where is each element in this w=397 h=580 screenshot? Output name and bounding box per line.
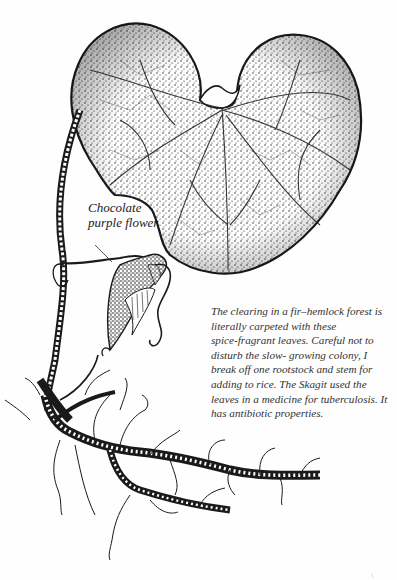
- wild-ginger-illustration: [0, 0, 397, 580]
- flower-label: Chocolate purple flower: [88, 200, 183, 230]
- book-page: Chocolate purple flower The clearing in …: [0, 0, 397, 580]
- flower: [53, 254, 170, 400]
- caption-paragraph: The clearing in a fir–hemlock forest is …: [211, 304, 397, 421]
- caption-line: spice-fragrant leaves. Careful not to: [211, 333, 397, 348]
- caption-line: leaves in a medicine for tuberculosis. I…: [211, 392, 397, 407]
- caption-line: adding to rice. The Skagit used the: [211, 377, 397, 392]
- caption-line: break off one rootstock and stem for: [211, 362, 397, 377]
- flower-label-line-1: Chocolate: [88, 200, 183, 215]
- caption-line: disturb the slow- growing colony, I: [211, 348, 397, 363]
- caption-line: The clearing in a fir–hemlock forest is: [211, 304, 397, 319]
- caption-line: literally carpeted with these: [211, 319, 397, 334]
- flower-label-line-2: purple flower: [88, 215, 183, 230]
- caption-line: has antibiotic properties.: [211, 406, 397, 421]
- leaf-stem: [47, 110, 80, 410]
- leaf: [71, 23, 361, 273]
- page-mark: [372, 573, 373, 578]
